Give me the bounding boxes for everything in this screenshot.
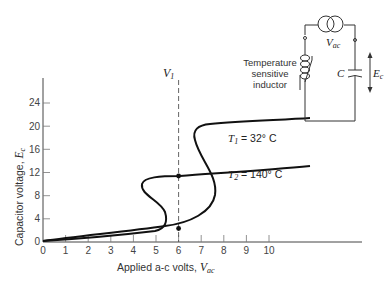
y-tick-12: 12	[29, 167, 41, 178]
y-tick-20: 20	[29, 121, 41, 132]
x-tick-5: 5	[153, 245, 159, 256]
y-tick-labels: 0 4 8 12 16 20 24	[29, 97, 41, 247]
intersection-point-lower	[176, 226, 181, 231]
ac-source-icon	[318, 16, 334, 32]
inductor-label-line-3: inductor	[253, 79, 287, 90]
inductor-label-line-1: Temperature	[243, 57, 296, 68]
x-tick-3: 3	[108, 245, 114, 256]
x-tick-7: 7	[198, 245, 204, 256]
x-tick-10: 10	[263, 245, 275, 256]
y-tick-24: 24	[29, 97, 41, 108]
ec-label: Ec	[372, 67, 384, 81]
x-axis-label: Applied a-c volts, Vac	[117, 261, 215, 275]
axes	[43, 78, 362, 242]
inductor-label: Temperature sensitive inductor	[243, 57, 296, 90]
x-tick-2: 2	[85, 245, 91, 256]
x-tick-1: 1	[63, 245, 69, 256]
inductor-label-line-2: sensitive	[252, 68, 289, 79]
x-tick-labels: 0 1 2 3 4 5 6 7 8 9 10	[40, 245, 275, 256]
circuit-diagram	[300, 16, 370, 121]
x-tick-9: 9	[244, 245, 250, 256]
x-tick-4: 4	[131, 245, 137, 256]
y-axis-label: Capacitor voltage, Ec	[13, 147, 27, 246]
capacitor-label: C	[337, 67, 345, 79]
x-tick-6: 6	[176, 245, 182, 256]
v1-label: V1	[163, 66, 174, 81]
y-tick-16: 16	[29, 144, 41, 155]
x-tick-0: 0	[40, 245, 46, 256]
y-tick-4: 4	[34, 213, 40, 224]
inductor-icon	[301, 55, 310, 82]
y-ticks	[43, 103, 50, 219]
t1-label: T1 = 32° C	[228, 132, 277, 146]
source-label: Vac	[326, 36, 341, 50]
t2-label: T2 = 140° C	[228, 168, 283, 182]
y-tick-8: 8	[34, 190, 40, 201]
figure: 0 4 8 12 16 20 24 0 1 2 3 4 5 6 7 8 9 10…	[0, 0, 392, 281]
x-tick-8: 8	[221, 245, 227, 256]
intersection-point-upper	[176, 174, 181, 179]
